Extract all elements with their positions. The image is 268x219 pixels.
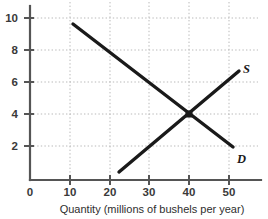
equilibrium-point-marker (186, 111, 193, 118)
x-tick-label-30: 30 (143, 186, 156, 198)
x-tick-label-20: 20 (104, 186, 117, 198)
y-tick-label-8: 8 (12, 44, 19, 56)
supply-curve (119, 71, 239, 172)
chart-canvas: 10 8 6 4 2 0 10 20 30 40 50 S D Quantity… (0, 0, 268, 219)
axes (30, 6, 261, 180)
y-tick-labels: 10 8 6 4 2 (5, 12, 18, 152)
x-tick-labels: 0 10 20 30 40 50 (27, 186, 236, 198)
supply-curve-label: S (243, 62, 250, 76)
x-axis-title: Quantity (millions of bushels per year) (60, 203, 245, 215)
x-tick-label-10: 10 (64, 186, 77, 198)
x-tick-label-40: 40 (183, 186, 196, 198)
supply-demand-chart: 10 8 6 4 2 0 10 20 30 40 50 S D Quantity… (0, 0, 268, 219)
y-tick-label-6: 6 (12, 76, 18, 88)
demand-curve (73, 24, 233, 147)
y-tick-label-10: 10 (5, 12, 18, 24)
y-tick-label-4: 4 (12, 108, 19, 120)
y-tick-label-2: 2 (12, 140, 18, 152)
x-tick-label-50: 50 (223, 186, 236, 198)
demand-curve-label: D (236, 152, 246, 166)
grid-lines (30, 2, 258, 180)
x-tick-label-0: 0 (27, 186, 33, 198)
